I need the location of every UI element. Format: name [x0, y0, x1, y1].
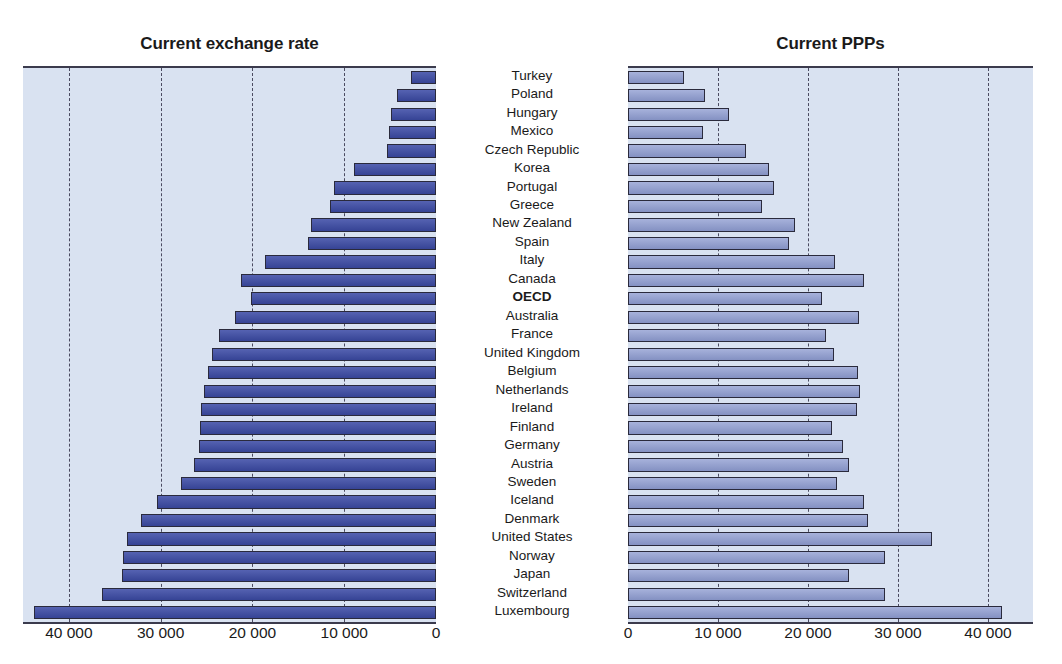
bar [204, 385, 436, 398]
axis-tick-label: 20 000 [784, 624, 831, 642]
bar-row [23, 253, 436, 271]
bar [628, 403, 857, 416]
right-plot-area [628, 66, 1033, 622]
bar-row [628, 327, 1033, 345]
bar [628, 255, 835, 268]
bar-row [628, 456, 1033, 474]
bar-row [628, 308, 1033, 326]
bar-row [23, 105, 436, 123]
bar [199, 440, 436, 453]
left-plot-area [23, 66, 436, 622]
bar [628, 606, 1002, 619]
bar-row [23, 86, 436, 104]
bar-row [628, 290, 1033, 308]
bar-row [628, 493, 1033, 511]
bar [628, 218, 795, 231]
bar [628, 181, 774, 194]
right-axis-tick-labels: 010 00020 00030 00040 000 [628, 624, 1033, 648]
category-label: New Zealand [438, 216, 626, 230]
axis-tick-label: 10 000 [694, 624, 741, 642]
bar-row [628, 216, 1033, 234]
bar [181, 477, 436, 490]
bar [628, 329, 826, 342]
bar-row [628, 105, 1033, 123]
bar-row [23, 511, 436, 529]
category-label: Norway [438, 549, 626, 563]
bar [628, 458, 849, 471]
bar-row [23, 530, 436, 548]
category-label: Turkey [438, 69, 626, 83]
bar [628, 385, 860, 398]
bar [354, 163, 436, 176]
category-label: Iceland [438, 493, 626, 507]
bar-row [628, 271, 1033, 289]
bar [628, 366, 858, 379]
bar-row [628, 179, 1033, 197]
bar-row [23, 474, 436, 492]
bar [411, 71, 436, 84]
category-label: Korea [438, 161, 626, 175]
bar [141, 514, 436, 527]
bar [219, 329, 437, 342]
axis-tick-label: 40 000 [45, 624, 92, 642]
category-label: OECD [438, 290, 626, 304]
bar [127, 532, 436, 545]
bar [241, 274, 436, 287]
bar-row [23, 123, 436, 141]
bar-row [23, 493, 436, 511]
category-label: Greece [438, 198, 626, 212]
category-label: Austria [438, 457, 626, 471]
bar [265, 255, 436, 268]
category-label: Finland [438, 420, 626, 434]
category-label: United Kingdom [438, 346, 626, 360]
bar-row [23, 363, 436, 381]
category-label: Japan [438, 567, 626, 581]
bar-row [23, 567, 436, 585]
category-label: Australia [438, 309, 626, 323]
bar-row [23, 345, 436, 363]
bar-row [23, 68, 436, 86]
bar-row [628, 160, 1033, 178]
bar-row [23, 271, 436, 289]
left-panel-title: Current exchange rate [23, 34, 436, 54]
bar-row [23, 456, 436, 474]
bar [201, 403, 436, 416]
bar-row [23, 585, 436, 603]
bar [628, 477, 837, 490]
bar [628, 237, 789, 250]
bar [157, 495, 436, 508]
bar [194, 458, 436, 471]
bar-row [23, 382, 436, 400]
bar [628, 440, 843, 453]
category-label: Spain [438, 235, 626, 249]
bar [628, 588, 885, 601]
bar-row [628, 68, 1033, 86]
category-label: Netherlands [438, 383, 626, 397]
axis-tick-label: 40 000 [964, 624, 1011, 642]
bar [628, 126, 703, 139]
bar-row [628, 437, 1033, 455]
axis-tick-label: 30 000 [874, 624, 921, 642]
bar-row [23, 604, 436, 622]
bar-row [23, 179, 436, 197]
bar [628, 274, 864, 287]
bar-row [23, 290, 436, 308]
category-label: Ireland [438, 401, 626, 415]
bar [628, 348, 834, 361]
category-label: Belgium [438, 364, 626, 378]
bar-row [628, 382, 1033, 400]
bar [628, 569, 849, 582]
bar [208, 366, 436, 379]
bar-row [628, 253, 1033, 271]
bar [34, 606, 436, 619]
paired-bar-chart: Current exchange rate Current PPPs Turke… [0, 0, 1062, 664]
bar [628, 551, 885, 564]
bar-row [23, 142, 436, 160]
bar [123, 551, 436, 564]
bar [334, 181, 436, 194]
bar [397, 89, 436, 102]
axis-tick-label: 0 [432, 624, 441, 642]
right-panel-title: Current PPPs [628, 34, 1033, 54]
category-label: Hungary [438, 106, 626, 120]
bar-row [23, 234, 436, 252]
